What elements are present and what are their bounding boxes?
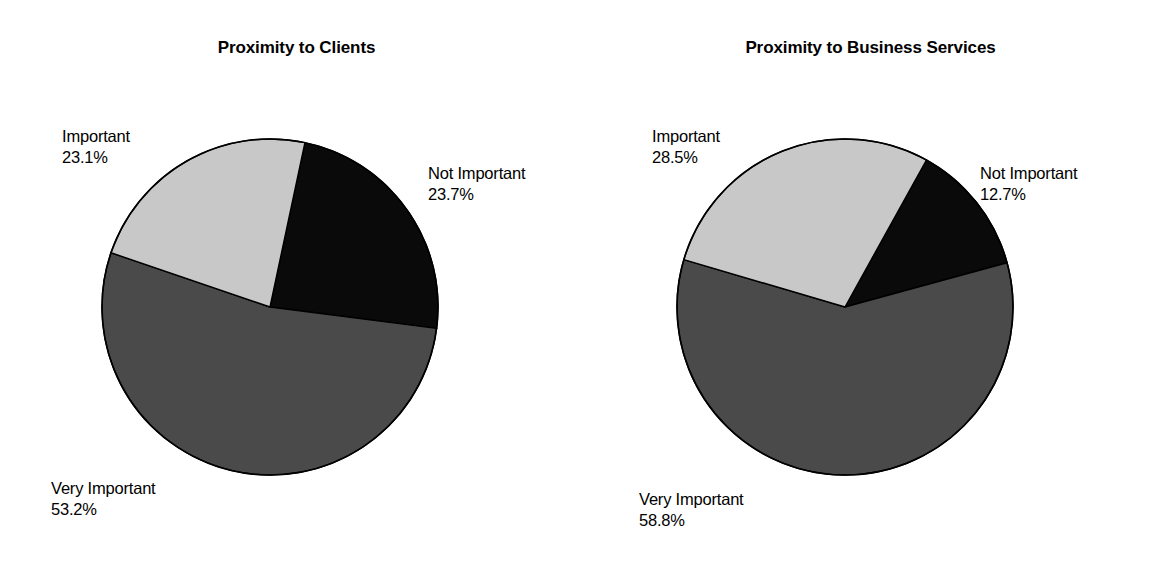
chart-panel-proximity-to-clients: Proximity to Clients Important 23.1% Not… [0, 0, 577, 587]
slice-label-very-important-left-name: Very Important [51, 479, 156, 497]
slice-label-not-important-left-name: Not Important [428, 164, 525, 182]
slice-label-not-important-right-pct: 12.7% [980, 184, 1077, 205]
slice-label-important-right: Important 28.5% [652, 126, 720, 169]
slice-label-important-left-name: Important [62, 127, 130, 145]
slice-label-important-left-pct: 23.1% [62, 147, 130, 168]
slice-label-very-important-left-pct: 53.2% [51, 499, 156, 520]
chart-panel-proximity-to-business-services: Proximity to Business Services Important… [577, 0, 1154, 587]
slice-label-important-right-name: Important [652, 127, 720, 145]
pie-chart-figure: Proximity to Clients Important 23.1% Not… [0, 0, 1154, 587]
slice-label-very-important-right: Very Important 58.8% [639, 489, 744, 532]
slice-label-very-important-left: Very Important 53.2% [51, 478, 156, 521]
slice-label-not-important-right: Not Important 12.7% [980, 163, 1077, 206]
slice-label-not-important-left: Not Important 23.7% [428, 163, 525, 206]
slice-label-not-important-left-pct: 23.7% [428, 184, 525, 205]
slice-label-important-left: Important 23.1% [62, 126, 130, 169]
slice-label-not-important-right-name: Not Important [980, 164, 1077, 182]
slice-label-very-important-right-pct: 58.8% [639, 510, 744, 531]
slice-label-important-right-pct: 28.5% [652, 147, 720, 168]
slice-label-very-important-right-name: Very Important [639, 490, 744, 508]
